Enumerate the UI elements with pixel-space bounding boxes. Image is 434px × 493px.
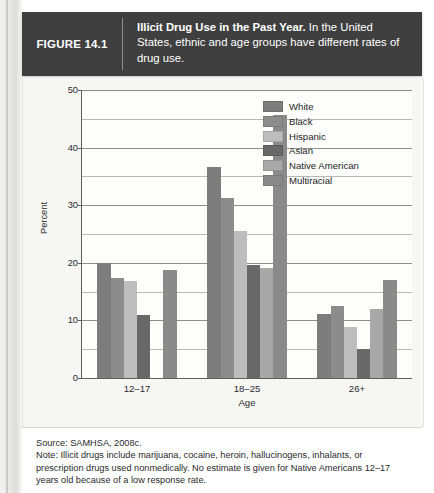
legend-item: Multiracial: [263, 174, 359, 187]
figure-caption: Illicit Drug Use in the Past Year. In th…: [123, 12, 422, 76]
y-tick-mark: [78, 90, 82, 91]
bar-native-american-18-25: [260, 268, 273, 378]
gridline-minor: [82, 119, 412, 120]
y-tick-mark: [78, 148, 82, 149]
bar-black-12-17: [111, 278, 124, 378]
legend-swatch-native-american: [263, 160, 283, 171]
x-axis-label: Age: [238, 397, 255, 408]
legend-label: Hispanic: [289, 131, 326, 142]
gridline-minor: [82, 234, 412, 235]
bar-black-26+: [331, 306, 344, 378]
y-tick-label: 10: [68, 315, 78, 325]
x-tick-label: 12–17: [124, 383, 151, 394]
gridline-minor: [82, 176, 412, 177]
legend-label: Native American: [289, 160, 359, 171]
gridline-major: [82, 263, 412, 264]
bar-white-12-17: [97, 263, 110, 378]
bar-hispanic-26+: [344, 327, 357, 378]
legend-label: Asian: [289, 145, 313, 156]
y-tick-label: 0: [73, 373, 78, 383]
bar-white-18-25: [207, 167, 220, 378]
bar-black-18-25: [221, 198, 234, 378]
y-tick-label: 30: [68, 200, 78, 210]
figure-number: FIGURE 14.1: [22, 12, 122, 76]
legend-label: Multiracial: [289, 175, 332, 186]
bar-white-26+: [317, 314, 330, 378]
legend-swatch-asian: [263, 145, 283, 156]
figure-banner: FIGURE 14.1 Illicit Drug Use in the Past…: [22, 12, 422, 76]
y-tick-mark: [78, 263, 82, 264]
legend-label: White: [289, 101, 314, 112]
legend-swatch-black: [263, 116, 283, 127]
page-gutter: [0, 0, 22, 493]
note-source: Source: SAMHSA, 2008c.: [36, 437, 408, 449]
gutter-rule: [6, 0, 8, 493]
legend-swatch-white: [263, 101, 283, 112]
chart-legend: WhiteBlackHispanicAsianNative AmericanMu…: [263, 100, 359, 189]
legend-swatch-hispanic: [263, 131, 283, 142]
figure-caption-title: Illicit Drug Use in the Past Year.: [137, 21, 306, 33]
bar-asian-26+: [357, 349, 370, 378]
legend-item: Asian: [263, 144, 359, 157]
y-tick-label: 40: [68, 143, 78, 153]
chart-container: Percent Age 0102030405012–1718–2526+ Whi…: [22, 78, 424, 427]
legend-item: Native American: [263, 159, 359, 172]
plot-wrapper: Percent Age 0102030405012–1718–2526+ Whi…: [23, 78, 423, 427]
bar-native-american-26+: [370, 309, 383, 378]
legend-label: Black: [289, 116, 312, 127]
gridline-major: [82, 205, 412, 206]
legend-item: Black: [263, 115, 359, 128]
x-tick-label: 26+: [349, 383, 365, 394]
bar-multiracial-26+: [383, 280, 396, 378]
y-axis-label: Percent: [39, 202, 49, 234]
legend-swatch-multiracial: [263, 175, 283, 186]
gridline-major: [82, 90, 412, 91]
bar-hispanic-18-25: [234, 231, 247, 378]
note-text: Note: Illicit drugs include marijuana, c…: [36, 449, 408, 486]
bar-multiracial-12-17: [163, 270, 176, 378]
x-tick-label: 18–25: [234, 383, 261, 394]
legend-item: Hispanic: [263, 130, 359, 143]
figure-page: FIGURE 14.1 Illicit Drug Use in the Past…: [0, 0, 434, 493]
plot-area: Age 0102030405012–1718–2526+: [81, 90, 412, 379]
figure-note: Source: SAMHSA, 2008c. Note: Illicit dru…: [22, 427, 422, 485]
bar-asian-18-25: [247, 265, 260, 378]
y-tick-mark: [78, 205, 82, 206]
gridline-major: [82, 148, 412, 149]
y-tick-label: 50: [68, 85, 78, 95]
bar-hispanic-12-17: [124, 281, 137, 378]
bar-asian-12-17: [137, 315, 150, 378]
y-tick-mark: [78, 378, 82, 379]
y-tick-mark: [78, 320, 82, 321]
legend-item: White: [263, 100, 359, 113]
y-tick-label: 20: [68, 258, 78, 268]
